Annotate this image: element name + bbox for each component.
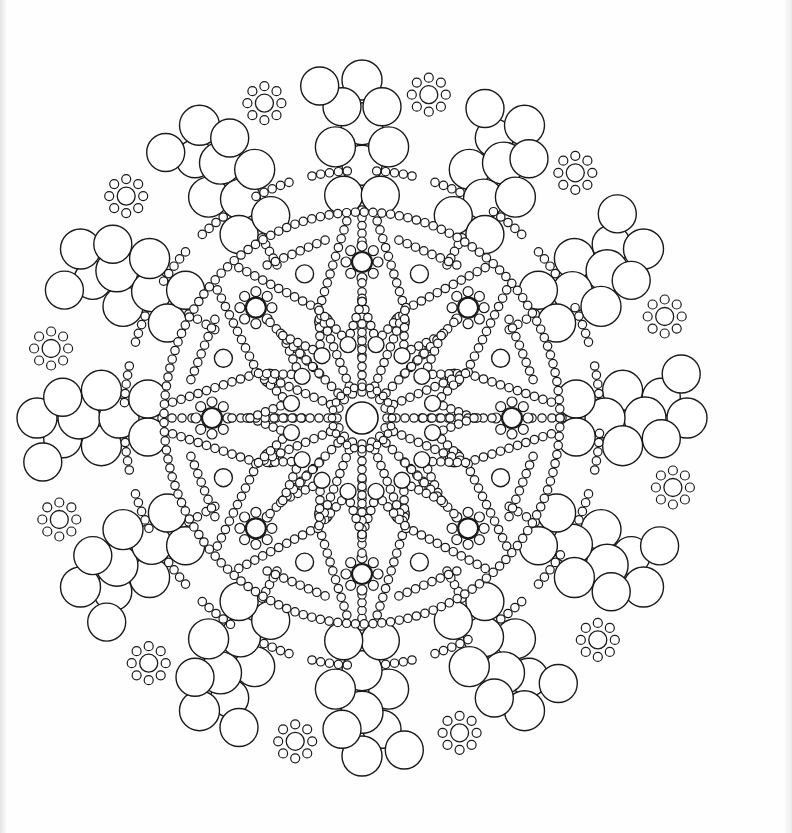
mandala-illustration xyxy=(0,0,792,833)
coloring-page xyxy=(0,0,792,833)
